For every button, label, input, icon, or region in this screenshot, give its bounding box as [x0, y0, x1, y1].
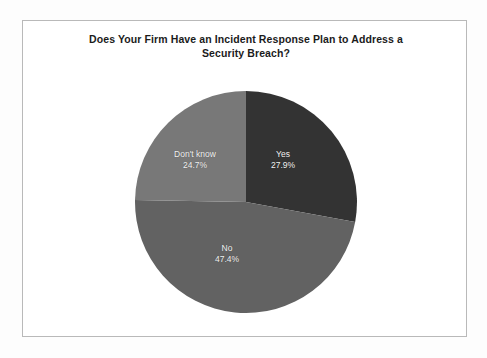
pie-label-dont-know: Don't know 24.7%: [155, 149, 235, 171]
pie-label-no-name: No: [197, 243, 257, 254]
pie-chart: Yes 27.9% No 47.4% Don't know 24.7%: [135, 91, 357, 313]
pie-label-no-value: 47.4%: [197, 254, 257, 265]
chart-page: Does Your Firm Have an Incident Response…: [0, 0, 487, 358]
pie-label-dont-know-name: Don't know: [155, 149, 235, 160]
chart-title: Does Your Firm Have an Incident Response…: [69, 32, 423, 60]
pie-label-yes-value: 27.9%: [253, 160, 313, 171]
pie-slices: [135, 91, 357, 313]
pie-chart-svg: [135, 91, 357, 313]
chart-title-line-2: Breach?: [247, 47, 290, 59]
chart-title-line-1: Does Your Firm Have an Incident Response…: [89, 33, 403, 59]
pie-label-yes-name: Yes: [253, 149, 313, 160]
chart-frame: Does Your Firm Have an Incident Response…: [22, 20, 467, 337]
pie-label-no: No 47.4%: [197, 243, 257, 265]
pie-label-yes: Yes 27.9%: [253, 149, 313, 171]
pie-label-dont-know-value: 24.7%: [155, 160, 235, 171]
pie-slice-dont-know[interactable]: [135, 91, 246, 202]
